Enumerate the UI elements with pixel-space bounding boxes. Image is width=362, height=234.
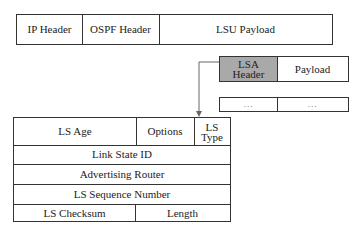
link-state-id-label: Link State ID: [92, 149, 152, 160]
lsa-header-format-table: LS Age Options LS Type Link State ID Adv…: [13, 117, 231, 222]
length-field: Length: [135, 204, 230, 222]
ls-checksum-label: LS Checksum: [43, 208, 105, 219]
link-state-id-field: Link State ID: [14, 145, 230, 164]
options-field: Options: [136, 118, 194, 145]
ls-age-field: LS Age: [14, 118, 136, 145]
ls-age-label: LS Age: [58, 126, 91, 137]
ls-type-label-line2: Type: [201, 132, 223, 142]
ls-checksum-field: LS Checksum: [14, 204, 135, 222]
ls-sequence-number-field: LS Sequence Number: [14, 184, 230, 204]
advertising-router-label: Advertising Router: [80, 169, 165, 180]
ls-type-label-line1: LS: [206, 122, 219, 132]
advertising-router-field: Advertising Router: [14, 164, 230, 184]
ls-sequence-number-label: LS Sequence Number: [74, 189, 171, 200]
ls-type-field: LS Type: [194, 118, 230, 145]
options-label: Options: [148, 126, 183, 137]
length-label: Length: [167, 208, 198, 219]
